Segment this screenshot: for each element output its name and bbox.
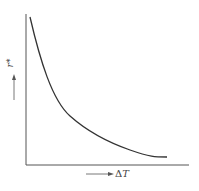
x-axis-label: ΔT xyxy=(115,168,129,179)
chart-plot xyxy=(0,0,199,191)
y-axis-label: r* xyxy=(5,59,15,68)
data-curve xyxy=(30,17,167,157)
x-axis-label-var: T xyxy=(122,168,129,179)
y-arrow-head-icon xyxy=(12,74,16,80)
x-arrow-head-icon xyxy=(108,172,114,176)
